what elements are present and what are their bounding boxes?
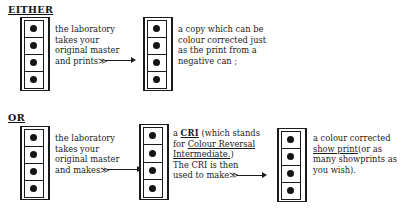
- text-line: you wish).: [313, 165, 397, 176]
- chevron-double-icon: ≫: [98, 56, 106, 66]
- filmstrip-frames: [147, 20, 167, 89]
- text-line: the laboratory: [55, 24, 136, 35]
- step-text-original-master-2: the laboratory takes your original maste…: [55, 133, 142, 175]
- flow-arrow-icon: ≫: [98, 56, 136, 67]
- film-frame: [282, 149, 300, 166]
- film-frame: [25, 55, 43, 72]
- text-fragment: (which stands: [199, 128, 260, 138]
- film-dot-icon: [30, 168, 37, 175]
- section-label-or: OR: [8, 112, 25, 123]
- film-dot-icon: [149, 150, 156, 157]
- text-line: the laboratory: [55, 133, 142, 144]
- text-fragment: ): [230, 149, 233, 159]
- film-dot-icon: [30, 76, 37, 83]
- film-frame: [148, 55, 166, 72]
- text-line: Intermediate.): [173, 149, 267, 160]
- step-text-cri: a CRI (which stands for Colour Reversal …: [173, 128, 267, 181]
- text-line: for Colour Reversal: [173, 139, 267, 150]
- text-line: many showprints as: [313, 154, 397, 165]
- step-text-showprint: a colour corrected show print(or as many…: [313, 133, 397, 175]
- text-line-with-arrow: and makes≫: [55, 165, 142, 176]
- filmstrip-original-master-2: [20, 126, 50, 200]
- film-dot-icon: [153, 42, 160, 49]
- film-dot-icon: [153, 76, 160, 83]
- text-line: colour corrected just: [178, 35, 266, 46]
- film-frame: [282, 132, 300, 149]
- text-line: takes your: [55, 35, 136, 46]
- film-dot-icon: [149, 185, 156, 192]
- film-dot-icon: [30, 134, 37, 141]
- film-frame: [144, 163, 162, 181]
- expansion-term-line1: Colour Reversal: [188, 139, 256, 149]
- text-line-with-arrow: used to make≫: [173, 170, 267, 181]
- film-frame: [25, 164, 43, 181]
- text-line: original master: [55, 154, 142, 165]
- film-dot-icon: [287, 136, 294, 143]
- chevron-double-icon: ≫: [229, 170, 237, 180]
- text-line: show print(or as: [313, 144, 397, 155]
- text-line: negative can ;: [178, 56, 266, 67]
- filmstrip-showprint: [277, 128, 307, 202]
- film-dot-icon: [30, 185, 37, 192]
- text-line: as the print from a: [178, 45, 266, 56]
- film-dot-icon: [30, 42, 37, 49]
- text-fragment: a: [173, 128, 181, 138]
- filmstrip-frames: [24, 20, 44, 89]
- text-line: a colour corrected: [313, 133, 397, 144]
- film-dot-icon: [287, 153, 294, 160]
- flow-arrow-icon: ≫: [229, 170, 267, 181]
- film-dot-icon: [30, 25, 37, 32]
- film-frame: [144, 180, 162, 197]
- acronym-cri: CRI: [181, 128, 199, 138]
- film-frame: [282, 183, 300, 199]
- expansion-term-line2: Intermediate.: [173, 149, 230, 159]
- filmstrip-frames: [24, 129, 44, 198]
- arrow-shaft: [106, 60, 132, 61]
- text-line: a copy which can be: [178, 24, 266, 35]
- chevron-double-icon: ≫: [100, 165, 108, 175]
- film-frame: [25, 38, 43, 55]
- film-dot-icon: [149, 132, 156, 139]
- film-frame: [148, 38, 166, 55]
- text-line: and prints: [55, 56, 98, 66]
- arrow-shaft: [108, 169, 138, 170]
- text-line: The CRI is then: [173, 160, 267, 171]
- section-label-either: EITHER: [8, 4, 53, 15]
- film-frame: [148, 72, 166, 88]
- text-line: a CRI (which stands: [173, 128, 267, 139]
- text-fragment: (or as: [358, 144, 382, 154]
- film-dot-icon: [153, 59, 160, 66]
- text-line: used to make: [173, 170, 229, 180]
- text-line: and makes: [55, 165, 100, 175]
- film-frame: [25, 130, 43, 147]
- film-dot-icon: [153, 25, 160, 32]
- film-dot-icon: [30, 151, 37, 158]
- film-frame: [25, 21, 43, 38]
- film-dot-icon: [30, 59, 37, 66]
- film-frame: [282, 166, 300, 183]
- text-line-with-arrow: and prints≫: [55, 56, 136, 67]
- arrow-head: [131, 57, 136, 63]
- film-dot-icon: [149, 167, 156, 174]
- film-frame: [144, 145, 162, 163]
- arrow-head: [262, 172, 267, 178]
- text-fragment: for: [173, 139, 188, 149]
- text-line: original master: [55, 45, 136, 56]
- filmstrip-frames: [281, 131, 301, 200]
- film-frame: [148, 21, 166, 38]
- film-dot-icon: [287, 187, 294, 194]
- film-frame: [25, 72, 43, 88]
- film-frame: [144, 128, 162, 146]
- filmstrip-frames: [143, 127, 163, 198]
- filmstrip-original-master: [20, 17, 50, 91]
- diagram-canvas: EITHER the laboratory takes your origina…: [0, 0, 403, 223]
- underlined-term-showprint: show print: [313, 144, 358, 154]
- filmstrip-colour-copy: [143, 17, 173, 91]
- step-text-colour-copy: a copy which can be colour corrected jus…: [178, 24, 266, 66]
- filmstrip-cri: [139, 124, 169, 200]
- text-line: takes your: [55, 144, 142, 155]
- film-dot-icon: [287, 170, 294, 177]
- flow-arrow-icon: ≫: [100, 165, 142, 176]
- step-text-original-master: the laboratory takes your original maste…: [55, 24, 136, 66]
- arrow-shaft: [237, 175, 263, 176]
